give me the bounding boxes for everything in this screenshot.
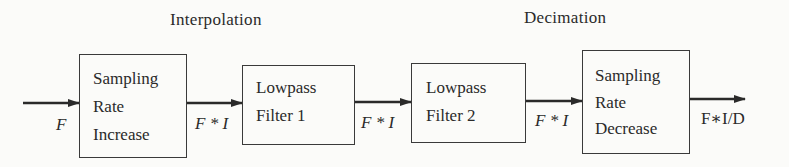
lowpass-filter-1-block: Lowpass Filter 1 — [242, 65, 355, 145]
block-label-line: Decrease — [595, 119, 657, 139]
sampling-rate-decrease-block: Sampling Rate Decrease — [582, 50, 690, 154]
input-signal-label: F — [56, 115, 66, 135]
sampling-rate-increase-block: Sampling Rate Increase — [79, 54, 187, 158]
signal-text: F * I — [195, 114, 228, 133]
block-label-line: Filter 1 — [256, 106, 306, 126]
signal-text: F — [56, 115, 66, 134]
block-label-line: Rate — [93, 97, 124, 117]
signal-label-after-filter1: F * I — [361, 113, 394, 133]
output-signal-label: F∗I/D — [701, 108, 745, 129]
block-label-line: Lowpass — [426, 78, 486, 98]
block-label-line: Increase — [93, 125, 150, 145]
block-label-line: Sampling — [595, 66, 660, 86]
signal-text: F * I — [361, 113, 394, 132]
block-label-line: Lowpass — [256, 78, 316, 98]
lowpass-filter-2-block: Lowpass Filter 2 — [411, 63, 526, 143]
signal-label-after-increase: F * I — [195, 114, 228, 134]
block-label-line: Filter 2 — [426, 106, 476, 126]
signal-label-after-filter2: F * I — [535, 111, 568, 131]
block-label-line: Rate — [595, 93, 626, 113]
block-label-line: Sampling — [93, 69, 158, 89]
signal-text: F * I — [535, 111, 568, 130]
